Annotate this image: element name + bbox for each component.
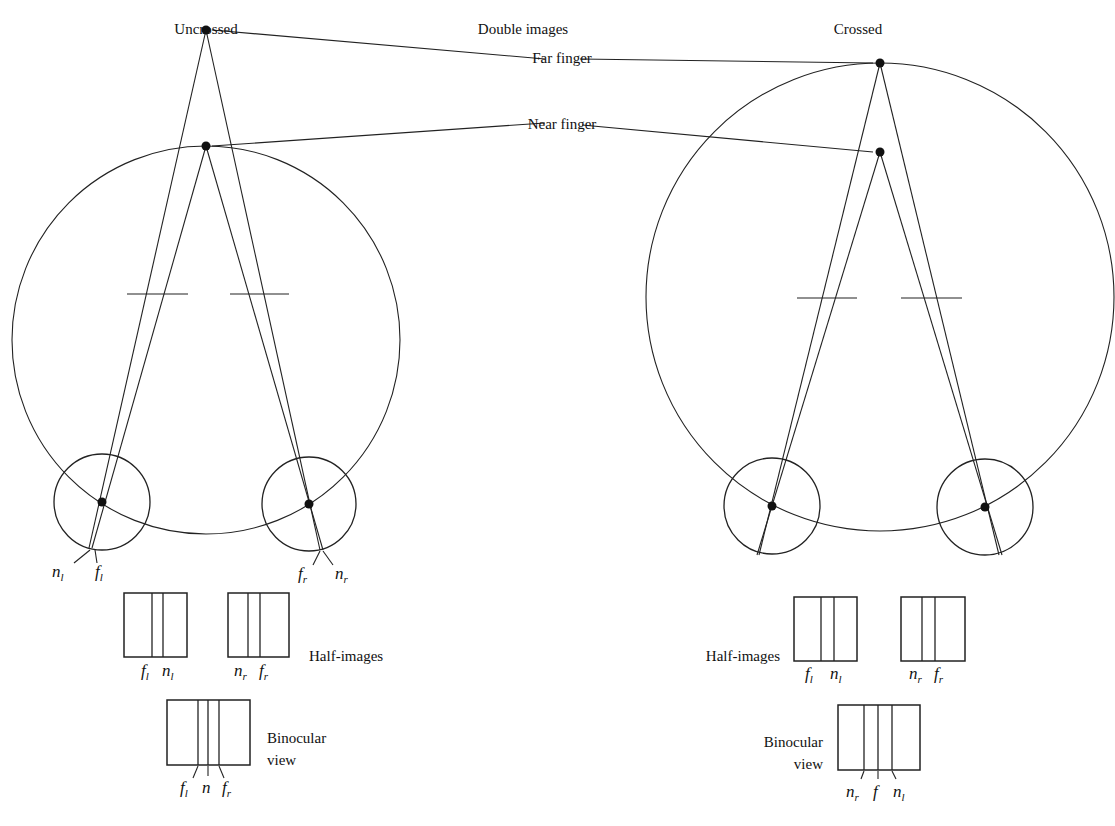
far-finger-dot-crossed: [876, 59, 885, 68]
binocular-mark-n-uncrossed: n: [202, 779, 211, 799]
half-images-label-uncrossed: Half-images: [309, 649, 383, 664]
binocular-mark-fr-uncrossed: fr: [222, 779, 231, 799]
half-image-label-nr-crossed: nr: [909, 665, 922, 685]
vieth-muller-circle-uncrossed: [12, 146, 400, 534]
binocular-box-crossed: [838, 705, 920, 770]
binocular-mark-f-crossed: f: [873, 783, 878, 803]
left-eye-nodal-point-crossed: [768, 502, 777, 511]
title-double-images: Double images: [478, 22, 568, 37]
binocular-mark-nl-crossed: nl: [893, 783, 905, 803]
half-image-label-nr-uncrossed: nr: [234, 662, 247, 682]
binocular-mark-fl-uncrossed: fl: [180, 779, 188, 799]
half-image-label-fl-crossed: fl: [805, 665, 813, 685]
title-crossed: Crossed: [834, 22, 882, 37]
crossed-diagram: [646, 63, 1114, 779]
title-uncrossed: Uncrossed: [174, 22, 237, 37]
near-finger-dot-uncrossed: [202, 142, 211, 151]
half-image-label-fr-uncrossed: fr: [259, 662, 268, 682]
binocular-label-crossed-line1: Binocular: [764, 735, 823, 750]
ray-far-left-uncrossed: [89, 30, 206, 548]
half-image-label-fl-uncrossed: fl: [141, 662, 149, 682]
half-images-label-crossed: Half-images: [706, 649, 780, 664]
retina-label-nr-uncrossed: nr: [335, 565, 348, 585]
right-eye-nodal-point-crossed: [981, 503, 990, 512]
half-image-right-box-crossed: [901, 597, 965, 661]
retina-label-nl-uncrossed: nl: [52, 563, 64, 583]
ray-near-right-crossed: [880, 152, 1002, 555]
half-image-label-nl-crossed: nl: [830, 665, 842, 685]
binocular-label-crossed-line2: view: [794, 757, 823, 772]
half-image-label-nl-uncrossed: nl: [162, 662, 174, 682]
half-image-left-box-crossed: [794, 597, 857, 661]
near-finger-dot-crossed: [876, 148, 885, 157]
right-eye-nodal-point-uncrossed: [305, 500, 314, 509]
vieth-muller-circle-crossed: [646, 63, 1114, 531]
binocular-label-uncrossed-line2: view: [267, 753, 296, 768]
retina-label-fl-uncrossed: fl: [95, 563, 103, 583]
ray-far-right-crossed: [880, 63, 999, 555]
label-far-finger: Far finger: [532, 51, 592, 66]
half-image-left-box-uncrossed: [124, 593, 187, 657]
ray-near-left-uncrossed: [92, 146, 206, 548]
binocular-label-uncrossed-line1: Binocular: [267, 731, 326, 746]
ray-far-right-uncrossed: [206, 30, 320, 550]
callout-leaders: [212, 30, 873, 152]
half-image-right-box-uncrossed: [228, 593, 289, 657]
half-image-label-fr-crossed: fr: [934, 665, 943, 685]
retina-label-fr-uncrossed: fr: [298, 565, 307, 585]
binocular-mark-nr-crossed: nr: [846, 783, 859, 803]
ray-far-left-crossed: [759, 63, 880, 555]
label-near-finger: Near finger: [528, 117, 597, 132]
left-eye-nodal-point-uncrossed: [98, 498, 107, 507]
